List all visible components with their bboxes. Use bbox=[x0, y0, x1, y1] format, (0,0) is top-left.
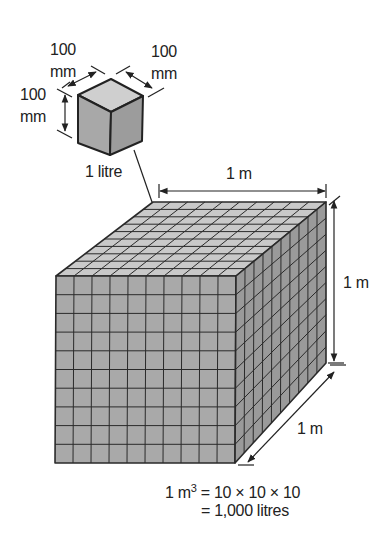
dim-unit: mm bbox=[139, 65, 189, 83]
small-cube-top-right-dimension: 100 mm bbox=[139, 43, 189, 84]
volume-equation-line2: = 1,000 litres bbox=[201, 502, 289, 520]
dim-value: 100 bbox=[139, 43, 189, 61]
large-cube-height-label: 1 m bbox=[343, 274, 369, 292]
dim-unit: mm bbox=[8, 108, 58, 126]
small-cube-caption: 1 litre bbox=[85, 163, 122, 181]
small-cube-top-left-dimension: 100 mm bbox=[38, 41, 88, 82]
volume-equation-line1: 1 m3 = 10 × 10 × 10 bbox=[165, 482, 300, 502]
dim-value: 100 bbox=[38, 41, 88, 59]
eq-rest: = 10 × 10 × 10 bbox=[197, 484, 301, 501]
large-cube-depth-label: 1 m bbox=[297, 420, 323, 438]
large-cube-cubic-metre bbox=[55, 202, 326, 463]
eq-prefix: 1 m bbox=[165, 484, 191, 501]
large-cube-width-label: 1 m bbox=[226, 165, 252, 183]
small-cube-left-dimension: 100 mm bbox=[8, 86, 58, 127]
dim-unit: mm bbox=[38, 63, 88, 81]
small-cube-litre bbox=[78, 79, 143, 155]
leader-line bbox=[134, 150, 152, 202]
dim-value: 100 bbox=[8, 86, 58, 104]
